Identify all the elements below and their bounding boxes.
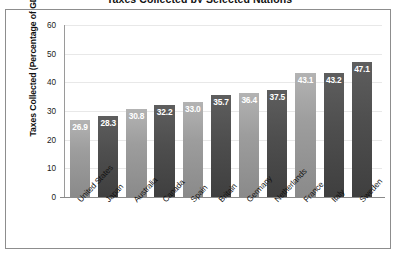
- x-axis-tick-labels: United StatesJapanAustraliaCanadaSpainBr…: [60, 198, 390, 253]
- y-tick-label: 0: [36, 193, 56, 202]
- bar-value-label: 43.1: [295, 75, 315, 85]
- bar-value-label: 32.2: [154, 107, 174, 117]
- bar-value-label: 28.3: [98, 118, 118, 128]
- bar-value-label: 47.1: [352, 64, 372, 74]
- y-tick-label: 40: [36, 78, 56, 87]
- bar-value-label: 35.7: [211, 97, 231, 107]
- gridline: [65, 54, 382, 55]
- bar-value-label: 36.4: [239, 95, 259, 105]
- y-tick-label: 50: [36, 50, 56, 59]
- bar-value-label: 37.5: [267, 92, 287, 102]
- chart-title: Taxes Collected by Selected Nations: [0, 0, 399, 3]
- y-tick-label: 20: [36, 136, 56, 145]
- y-tick-label: 10: [36, 164, 56, 173]
- y-tick-label: 30: [36, 107, 56, 116]
- gridline: [65, 25, 382, 26]
- bar-value-label: 33.0: [183, 104, 203, 114]
- bar-value-label: 30.8: [126, 111, 146, 121]
- bar: 47.1: [352, 62, 372, 197]
- bar: 43.2: [324, 73, 344, 197]
- bar-value-label: 43.2: [324, 75, 344, 85]
- bar-value-label: 26.9: [70, 122, 90, 132]
- y-tick-label: 60: [36, 21, 56, 30]
- y-axis-tick-labels: 6050403020100: [36, 16, 56, 198]
- bar-chart: Taxes Collected by Selected Nations Taxe…: [0, 0, 399, 257]
- bar: 36.4: [239, 93, 259, 197]
- bar: 35.7: [211, 95, 231, 197]
